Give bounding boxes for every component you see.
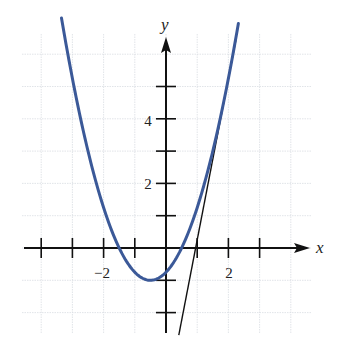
y-tick-label-4: 4 — [144, 113, 152, 129]
x-tick-label-2: 2 — [225, 265, 233, 281]
axes — [24, 37, 310, 333]
y-tick-label-2: 2 — [144, 176, 152, 192]
tick-labels: −2 2 2 4 — [94, 113, 233, 281]
x-tick-label-neg2: −2 — [94, 265, 110, 281]
x-axis-label: x — [315, 238, 324, 257]
y-axis-label: y — [159, 15, 169, 34]
chart: −2 2 2 4 x y — [0, 0, 344, 339]
parabola-curve — [61, 18, 238, 280]
